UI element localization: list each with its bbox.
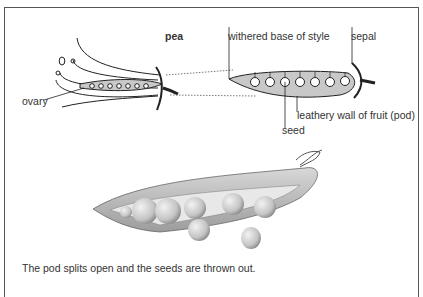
caption: The pod splits open and the seeds are th… bbox=[22, 262, 256, 274]
label-sepal: sepal bbox=[351, 31, 376, 42]
title-pea: pea bbox=[165, 31, 183, 42]
flower-illustration bbox=[44, 38, 178, 110]
label-seed: seed bbox=[282, 125, 305, 136]
label-withered-base-of-style: withered base of style bbox=[228, 31, 330, 42]
open-pod-illustration bbox=[93, 150, 322, 249]
label-ovary: ovary bbox=[22, 96, 48, 107]
label-leathery-wall: leathery wall of fruit (pod) bbox=[297, 110, 415, 121]
